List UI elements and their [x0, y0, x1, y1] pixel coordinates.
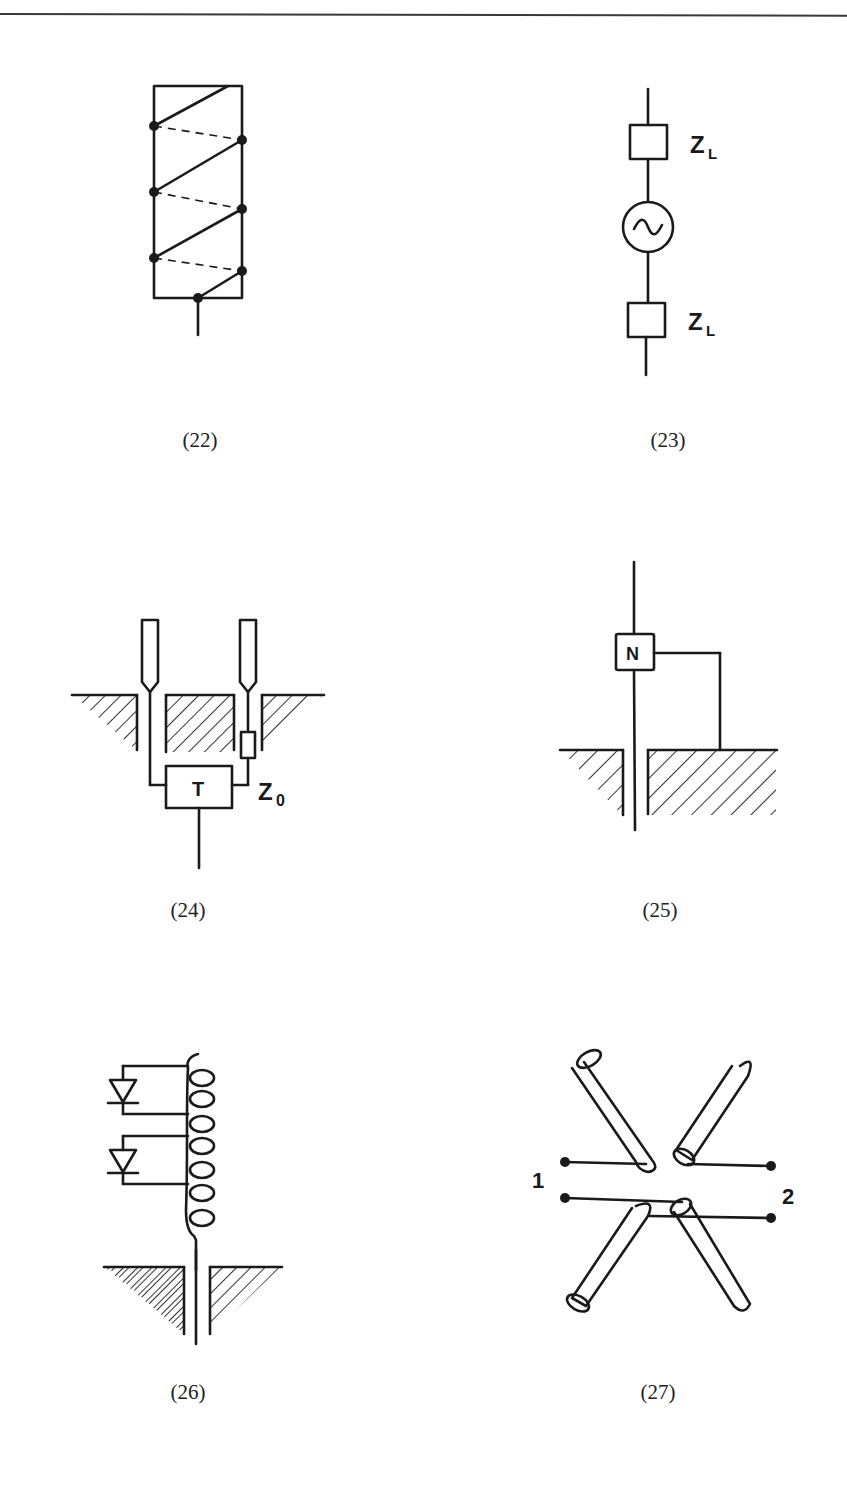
resistor — [241, 732, 255, 758]
rod-lower-right — [668, 1195, 750, 1310]
coil-turns — [190, 1070, 214, 1226]
caption-23: (23) — [618, 428, 718, 453]
caption-26: (26) — [138, 1380, 238, 1405]
caption-24: (24) — [138, 898, 238, 923]
caption-27: (27) — [608, 1380, 708, 1405]
caption-25: (25) — [610, 898, 710, 923]
top-rule — [0, 13, 847, 17]
svg-text:0: 0 — [276, 792, 285, 809]
rod-lower-left — [564, 1204, 650, 1316]
label-zl-top: Z — [690, 131, 705, 158]
caption-22: (22) — [150, 428, 250, 453]
rod-upper-left — [572, 1046, 655, 1172]
figure-24-dual-probe-transformer: T Z 0 — [60, 600, 340, 880]
figure-27-crossed-dipoles: 1 2 — [520, 1010, 800, 1330]
terminal-1b — [560, 1193, 570, 1203]
rod-upper-right — [671, 1062, 751, 1169]
impedance-box-top — [630, 125, 667, 159]
svg-text:L: L — [708, 145, 717, 162]
terminal-1a — [560, 1157, 570, 1167]
figure-26-coil-with-diodes — [90, 1040, 300, 1270]
terminal-2b — [766, 1213, 776, 1223]
svg-text:T: T — [192, 778, 204, 800]
impedance-box-bottom — [628, 303, 665, 337]
figure-25-monopole-network: N — [540, 550, 790, 840]
port-2-label: 2 — [782, 1184, 794, 1209]
port-1-label: 1 — [532, 1168, 544, 1193]
figure-22-helical-winding — [140, 80, 260, 340]
terminal-2a — [766, 1161, 776, 1171]
svg-text:N: N — [626, 644, 639, 664]
figure-23-source-with-loads: Z L Z L — [600, 85, 760, 375]
figure-26-ground-plane — [100, 1262, 290, 1352]
label-zl-bottom: Z — [688, 308, 703, 335]
label-z0: Z — [258, 778, 273, 805]
svg-text:L: L — [706, 322, 715, 339]
